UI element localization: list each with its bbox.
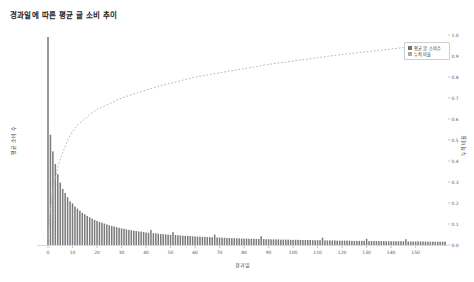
right-y-axis-ticks: 0.00.10.20.30.40.50.60.70.80.91.0 <box>448 33 459 248</box>
svg-text:0.7: 0.7 <box>452 96 459 101</box>
svg-text:0.8: 0.8 <box>452 75 459 80</box>
legend-label: 누적 비율 <box>414 51 431 57</box>
svg-text:0: 0 <box>47 250 50 255</box>
svg-text:140: 140 <box>387 250 396 255</box>
bar-series-swatch-icon <box>408 46 412 50</box>
svg-text:120: 120 <box>338 250 347 255</box>
svg-text:90: 90 <box>266 250 272 255</box>
svg-text:1.0: 1.0 <box>452 33 459 38</box>
svg-text:150: 150 <box>411 250 420 255</box>
svg-text:110: 110 <box>313 250 322 255</box>
svg-text:0.1: 0.1 <box>452 222 459 227</box>
svg-text:0.0: 0.0 <box>452 243 459 248</box>
legend-item-cumulative-ratio: 누적 비율 <box>408 51 447 57</box>
left-y-axis-label: 평균 소비 수 <box>9 106 16 176</box>
svg-text:70: 70 <box>217 250 223 255</box>
svg-text:0.2: 0.2 <box>452 201 459 206</box>
x-axis-label: 경과일 <box>37 261 448 268</box>
svg-text:80: 80 <box>241 250 247 255</box>
plot-area: 01020304050607080901001101201301401500.0… <box>0 0 474 282</box>
svg-text:20: 20 <box>94 250 100 255</box>
svg-text:60: 60 <box>192 250 198 255</box>
svg-text:100: 100 <box>289 250 298 255</box>
svg-text:30: 30 <box>119 250 125 255</box>
svg-text:0.9: 0.9 <box>452 54 459 59</box>
right-y-axis-label: 누적 비율 <box>459 111 466 181</box>
x-axis-ticks: 0102030405060708090100110120130140150 <box>47 246 421 255</box>
line-series-swatch-icon <box>408 52 412 56</box>
cumulative-line <box>48 44 445 239</box>
svg-text:130: 130 <box>362 250 371 255</box>
chart-figure: 경과일에 따른 평균 글 소비 추이 010203040506070809010… <box>0 0 474 282</box>
svg-text:50: 50 <box>168 250 174 255</box>
legend: 평균 글 소비수 누적 비율 <box>404 42 450 60</box>
svg-text:10: 10 <box>70 250 76 255</box>
svg-text:40: 40 <box>143 250 149 255</box>
